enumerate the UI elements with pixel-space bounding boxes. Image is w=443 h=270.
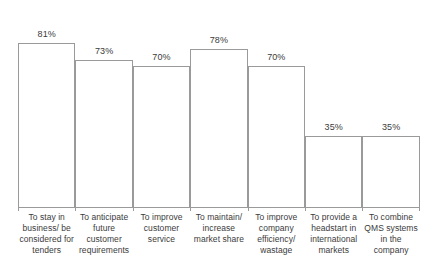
bar-rect[interactable]	[75, 60, 132, 207]
axis-tick	[75, 207, 76, 211]
bar-slot: 35%	[305, 5, 362, 207]
axis-tick	[305, 207, 306, 211]
bar-slot: 70%	[248, 5, 305, 207]
axis-tick	[18, 207, 19, 211]
bar-value-label: 35%	[325, 122, 343, 133]
x-axis-label: To provide a headstart in international …	[305, 212, 362, 256]
bar-rect[interactable]	[133, 66, 190, 207]
bar-value-label: 70%	[152, 52, 170, 63]
bar-value-label: 35%	[382, 122, 400, 133]
bar-slot: 35%	[362, 5, 419, 207]
plot-area: 81% 73% 70% 78% 70% 35% 35%	[18, 5, 420, 207]
axis-tick	[419, 207, 420, 211]
bar-rect[interactable]	[248, 66, 305, 207]
bar-value-label: 70%	[267, 52, 285, 63]
bar-chart: 81% 73% 70% 78% 70% 35% 35%	[0, 0, 443, 270]
x-axis-label: To maintain/ increase market share	[190, 212, 247, 245]
bar-slot: 81%	[18, 5, 75, 207]
axis-tick	[133, 207, 134, 211]
axis-tick	[362, 207, 363, 211]
bar-rect[interactable]	[305, 136, 362, 207]
bar-slot: 70%	[133, 5, 190, 207]
x-axis-line	[18, 207, 420, 208]
x-axis-label: To stay in business/ be considered for t…	[18, 212, 75, 256]
bar-rect[interactable]	[362, 136, 419, 207]
bar-value-label: 78%	[210, 35, 228, 46]
x-axis-label: To improve customer service	[133, 212, 190, 245]
x-axis-label: To combine QMS systems in the company	[362, 212, 419, 256]
bar-rect[interactable]	[18, 43, 75, 207]
axis-tick	[248, 207, 249, 211]
x-axis-label: To improve company efficiency/ wastage	[248, 212, 305, 256]
axis-tick	[190, 207, 191, 211]
bar-slot: 73%	[75, 5, 132, 207]
bar-value-label: 73%	[95, 46, 113, 57]
x-axis-label: To anticipate future customer requiremen…	[75, 212, 132, 256]
x-axis-labels: To stay in business/ be considered for t…	[18, 212, 420, 268]
bar-slot: 78%	[190, 5, 247, 207]
bar-rect[interactable]	[190, 49, 247, 207]
bar-value-label: 81%	[38, 29, 56, 40]
